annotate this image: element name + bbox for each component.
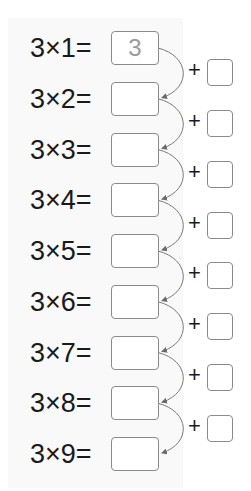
equation-label: 3×8= [30, 386, 92, 420]
equation-label: 3×4= [30, 183, 92, 217]
answer-box[interactable] [111, 82, 159, 116]
answer-box[interactable]: 3 [111, 31, 159, 65]
plus-sign: + [188, 260, 201, 286]
equation-label: 3×6= [30, 285, 92, 319]
plus-sign: + [188, 413, 201, 439]
step-box[interactable] [207, 364, 233, 391]
answer-box[interactable] [111, 234, 159, 268]
answer-box[interactable] [111, 386, 159, 420]
answer-box[interactable] [111, 285, 159, 319]
step-box[interactable] [207, 262, 233, 289]
equation-row: 3×9= [0, 437, 251, 471]
plus-sign: + [188, 362, 201, 388]
answer-box[interactable] [111, 437, 159, 471]
answer-box[interactable] [111, 133, 159, 167]
answer-box[interactable] [111, 183, 159, 217]
step-box[interactable] [207, 212, 233, 239]
equation-label: 3×3= [30, 133, 92, 167]
step-box[interactable] [207, 110, 233, 137]
step-box[interactable] [207, 59, 233, 86]
plus-sign: + [188, 311, 201, 337]
plus-sign: + [188, 57, 201, 83]
step-box[interactable] [207, 415, 233, 442]
step-box[interactable] [207, 161, 233, 188]
equation-label: 3×7= [30, 336, 92, 370]
equation-label: 3×1= [30, 31, 92, 65]
equation-label: 3×2= [30, 82, 92, 116]
equation-label: 3×9= [30, 437, 92, 471]
plus-sign: + [188, 108, 201, 134]
plus-sign: + [188, 210, 201, 236]
plus-sign: + [188, 159, 201, 185]
step-box[interactable] [207, 313, 233, 340]
equation-label: 3×5= [30, 234, 92, 268]
answer-box[interactable] [111, 336, 159, 370]
